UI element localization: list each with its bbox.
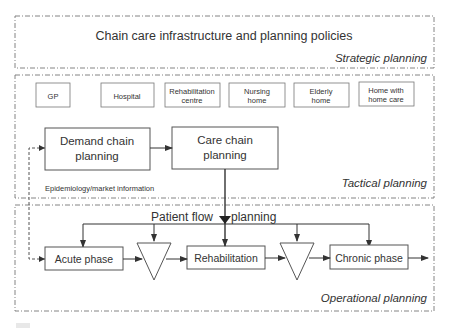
- facility-elderly-home: Elderly home: [294, 83, 349, 107]
- tactical-label: Tactical planning: [342, 177, 428, 189]
- svg-text:Care chain: Care chain: [197, 134, 253, 146]
- operational-label: Operational planning: [321, 292, 428, 304]
- facility-hospital: Hospital: [101, 83, 154, 107]
- svg-text:Acute phase: Acute phase: [55, 253, 114, 265]
- diagram-canvas: Chain care infrastructure and planning p…: [0, 0, 449, 328]
- svg-text:centre: centre: [182, 96, 203, 105]
- svg-text:Demand chain: Demand chain: [60, 135, 134, 147]
- feedback-label: Epidemiology/market information: [45, 184, 154, 193]
- svg-text:home care: home care: [368, 95, 403, 104]
- feedback-loop: [29, 148, 45, 259]
- strategic-label: Strategic planning: [335, 52, 428, 64]
- strategic-planning-panel: Chain care infrastructure and planning p…: [15, 16, 434, 68]
- patient-flow-label-left: Patient flow: [151, 210, 213, 224]
- svg-text:GP: GP: [48, 92, 59, 101]
- footer-mark: [16, 323, 30, 328]
- svg-text:planning: planning: [75, 150, 118, 162]
- facility-gp: GP: [36, 83, 70, 107]
- svg-text:Rehabilitation: Rehabilitation: [194, 252, 258, 264]
- acute-phase-box: Acute phase: [45, 247, 123, 270]
- svg-text:Home with: Home with: [368, 86, 403, 95]
- svg-text:Hospital: Hospital: [113, 92, 140, 101]
- demand-chain-planning-box: Demand chain planning: [45, 128, 150, 170]
- svg-text:home: home: [248, 96, 267, 105]
- facility-home-with-home-care: Home with home care: [359, 82, 414, 106]
- rehabilitation-box: Rehabilitation: [187, 246, 265, 269]
- care-chain-planning-box: Care chain planning: [172, 127, 278, 169]
- facility-nursing-home: Nursing home: [229, 83, 285, 107]
- svg-text:home: home: [312, 96, 331, 105]
- facility-rehabilitation-centre: Rehabilitation centre: [165, 83, 220, 107]
- svg-text:Rehabilitation: Rehabilitation: [169, 87, 214, 96]
- svg-text:planning: planning: [203, 149, 246, 161]
- inventory-triangle-1: [137, 243, 171, 280]
- svg-text:Elderly: Elderly: [310, 87, 333, 96]
- chronic-phase-box: Chronic phase: [330, 245, 408, 269]
- flow-arrowhead: [219, 216, 231, 224]
- patient-flow-label-right: planning: [231, 210, 276, 224]
- svg-text:Nursing: Nursing: [244, 87, 270, 96]
- inventory-triangle-2: [280, 243, 314, 280]
- svg-text:Chronic phase: Chronic phase: [335, 252, 403, 264]
- strategic-title: Chain care infrastructure and planning p…: [95, 29, 352, 43]
